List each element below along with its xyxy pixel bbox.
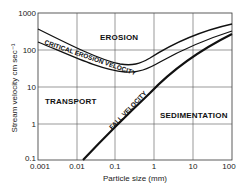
transport-label: TRANSPORT — [45, 97, 97, 106]
x-tick: 1 — [152, 162, 157, 171]
y-tick: 10 — [27, 83, 36, 92]
fall-velocity-label: FALL VELOCITY — [108, 89, 149, 131]
y-tick: 100 — [23, 46, 37, 55]
y-tick: 1000 — [18, 9, 36, 18]
y-axis-label: Stream velocity cm sec⁻¹ — [10, 43, 19, 132]
sedimentation-label: SEDIMENTATION — [160, 111, 228, 120]
erosion-label: EROSION — [100, 33, 138, 42]
critical-erosion-upper-curve — [38, 24, 232, 65]
x-axis-label: Particle size (mm) — [103, 174, 167, 183]
x-tick: 0.1 — [109, 162, 121, 171]
x-tick: 100 — [222, 162, 236, 171]
x-tick: 0.001 — [30, 162, 51, 171]
x-tick: 10 — [189, 162, 198, 171]
y-tick: 1 — [32, 120, 37, 129]
x-axis-ticks: 0.001 0.01 0.1 1 10 100 — [30, 162, 236, 171]
critical-erosion-velocity-label: CRITICAL EROSION VELOCITY — [44, 38, 138, 76]
hjulstrom-chart: EROSION TRANSPORT SEDIMENTATION CRITICAL… — [0, 0, 247, 189]
x-tick: 0.01 — [69, 162, 85, 171]
y-axis-ticks: 1000 100 10 1 0.1 — [18, 9, 36, 163]
